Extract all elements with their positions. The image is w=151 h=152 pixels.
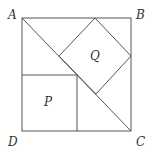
vertex-label-a: A <box>7 8 17 22</box>
vertex-label-c: C <box>136 135 145 149</box>
diagram-svg: A B C D P Q <box>0 0 151 152</box>
vertex-label-b: B <box>135 8 145 22</box>
square-label-p: P <box>43 95 53 109</box>
geometry-diagram: A B C D P Q <box>0 0 151 152</box>
square-label-q: Q <box>90 49 100 63</box>
vertex-label-d: D <box>7 135 18 149</box>
